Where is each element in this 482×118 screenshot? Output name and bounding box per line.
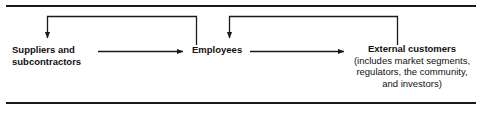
node-suppliers-title-line2: subcontractors <box>12 56 81 68</box>
node-suppliers-and-subcontractors: Suppliers and subcontractors <box>12 44 81 67</box>
node-customers-sub-line2: regulators, the community, <box>346 66 478 78</box>
connector-employees-feedback-to-suppliers <box>48 17 197 46</box>
connector-customers-feedback-to-employees <box>230 17 398 46</box>
node-customers-sub-line1: (includes market segments, <box>346 55 478 67</box>
node-external-customers: External customers (includes market segm… <box>346 43 478 89</box>
process-flow-diagram: Suppliers and subcontractors Employees E… <box>0 0 482 118</box>
node-employees: Employees <box>192 44 242 56</box>
node-customers-title: External customers <box>346 43 478 55</box>
node-employees-title: Employees <box>192 44 242 56</box>
node-customers-sub-line3: and investors) <box>346 78 478 90</box>
node-suppliers-title-line1: Suppliers and <box>12 44 81 56</box>
